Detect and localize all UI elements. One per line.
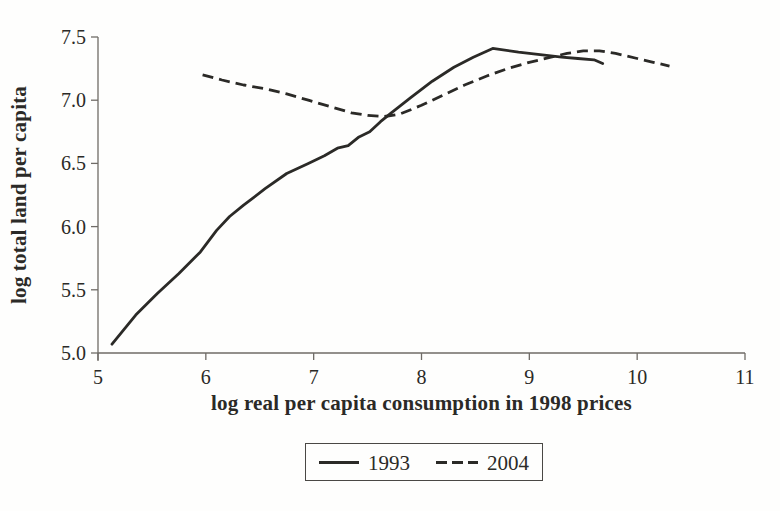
legend-label-2004: 2004 <box>487 451 529 474</box>
dashed-line-sample <box>436 461 478 464</box>
figure: 5678910115.05.56.06.57.07.5 log real per… <box>0 0 780 511</box>
x-tick-label: 8 <box>417 366 427 388</box>
y-tick-label: 6.5 <box>61 152 86 174</box>
x-tick-label: 7 <box>309 366 319 388</box>
solid-line-sample <box>319 461 359 464</box>
y-axis-title: log total land per capita <box>7 28 33 362</box>
legend-item-1993: 1993 <box>319 451 410 474</box>
x-tick-label: 6 <box>201 366 211 388</box>
y-tick-label: 7.5 <box>61 26 86 48</box>
series-line-1993 <box>112 48 603 344</box>
y-tick-label: 7.0 <box>61 89 86 111</box>
y-tick-label: 5.0 <box>61 342 86 364</box>
x-axis-title: log real per capita consumption in 1998 … <box>98 391 745 416</box>
axis-tick-labels: 5678910115.05.56.06.57.07.5 <box>61 26 755 388</box>
chart-canvas: 5678910115.05.56.06.57.07.5 <box>0 0 780 511</box>
axis-ticks <box>91 37 745 360</box>
x-tick-label: 5 <box>93 366 103 388</box>
x-tick-label: 11 <box>735 366 754 388</box>
y-tick-label: 6.0 <box>61 216 86 238</box>
axes <box>98 37 745 361</box>
x-tick-label: 9 <box>524 366 534 388</box>
legend-label-1993: 1993 <box>368 451 410 474</box>
legend-item-2004: 2004 <box>436 451 529 474</box>
legend-box: 1993 2004 <box>305 443 543 481</box>
x-tick-label: 10 <box>627 366 647 388</box>
y-tick-label: 5.5 <box>61 279 86 301</box>
data-series <box>112 48 670 344</box>
